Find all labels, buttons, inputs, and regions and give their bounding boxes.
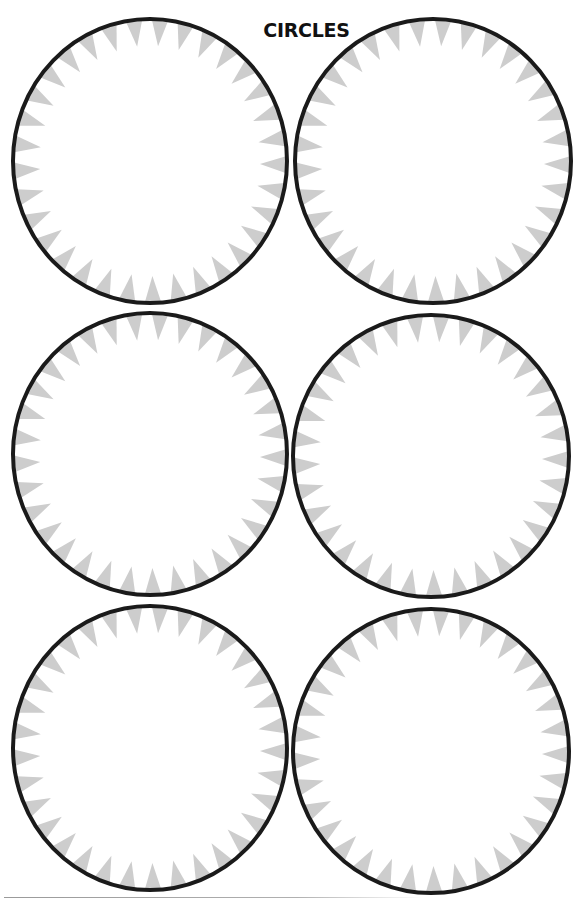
bottom-divider-line: [4, 897, 422, 898]
tooth-triangle: [119, 274, 135, 301]
tooth-triangle: [296, 136, 323, 153]
tooth-triangle: [407, 316, 423, 343]
circle-outline: [13, 19, 287, 303]
circle-teeth: [296, 20, 570, 302]
circle-outline: [13, 606, 287, 890]
tooth-triangle: [294, 726, 321, 743]
tooth-triangle: [400, 568, 416, 595]
tooth-triangle: [152, 314, 168, 340]
tooth-triangle: [296, 162, 322, 179]
toothed-circle-3: [13, 313, 287, 595]
tooth-triangle: [542, 130, 569, 146]
circle-outline: [295, 19, 571, 303]
tooth-triangle: [540, 720, 567, 736]
tooth-triangle: [14, 455, 40, 471]
circle-teeth: [294, 610, 568, 892]
tooth-triangle: [145, 863, 161, 889]
tooth-triangle: [14, 723, 41, 740]
tooth-triangle: [426, 570, 442, 596]
toothed-circle-6: [293, 609, 569, 893]
tooth-triangle: [539, 773, 566, 789]
tooth-triangle: [126, 314, 142, 341]
toothed-circle-4: [293, 315, 569, 597]
tooth-triangle: [171, 565, 187, 592]
tooth-triangle: [145, 568, 161, 594]
circle-teeth: [14, 20, 286, 302]
tooth-triangle: [145, 276, 161, 302]
page-title: CIRCLES: [0, 18, 587, 42]
tooth-triangle: [407, 610, 423, 637]
tooth-triangle: [260, 156, 286, 173]
tooth-triangle: [257, 770, 284, 786]
tooth-triangle: [294, 431, 321, 447]
tooth-triangle: [260, 449, 286, 466]
tooth-triangle: [400, 864, 416, 891]
toothed-circle-1: [13, 19, 287, 303]
tooth-triangle: [257, 183, 284, 199]
tooth-triangle: [540, 425, 567, 441]
tooth-triangle: [171, 860, 187, 887]
circle-teeth: [14, 314, 286, 594]
tooth-triangle: [259, 717, 286, 733]
tooth-triangle: [428, 276, 444, 302]
tooth-triangle: [257, 476, 284, 492]
circles-sheet: [0, 0, 587, 902]
tooth-triangle: [119, 566, 135, 593]
tooth-triangle: [259, 423, 286, 439]
tooth-triangle: [544, 156, 570, 173]
tooth-triangle: [452, 567, 468, 594]
circle-teeth: [294, 316, 568, 596]
tooth-triangle: [260, 743, 286, 760]
tooth-triangle: [294, 752, 320, 769]
tooth-triangle: [433, 610, 449, 636]
toothed-circle-5: [13, 606, 287, 890]
toothed-circle-2: [295, 19, 571, 303]
tooth-triangle: [294, 457, 320, 473]
tooth-triangle: [126, 607, 142, 634]
tooth-triangle: [402, 274, 418, 301]
tooth-triangle: [259, 130, 286, 146]
tooth-triangle: [119, 861, 135, 888]
tooth-triangle: [452, 863, 468, 890]
tooth-triangle: [539, 478, 566, 494]
circle-outline: [293, 315, 569, 597]
circle-teeth: [14, 607, 286, 889]
circle-outline: [293, 609, 569, 893]
tooth-triangle: [542, 746, 568, 763]
tooth-triangle: [14, 162, 40, 179]
tooth-triangle: [454, 273, 470, 300]
tooth-triangle: [14, 136, 41, 153]
tooth-triangle: [542, 451, 568, 468]
tooth-triangle: [171, 273, 187, 300]
tooth-triangle: [541, 183, 568, 199]
tooth-triangle: [14, 749, 40, 766]
circle-outline: [13, 313, 287, 595]
tooth-triangle: [152, 607, 168, 633]
tooth-triangle: [14, 429, 41, 445]
circle-templates-group: [13, 19, 571, 893]
tooth-triangle: [426, 866, 442, 892]
tooth-triangle: [433, 316, 449, 342]
